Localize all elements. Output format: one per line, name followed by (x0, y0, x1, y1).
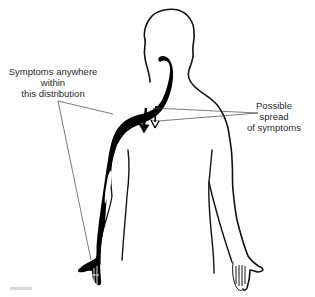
distribution-leader-lines (58, 101, 113, 260)
diagram-canvas: Symptoms anywhere within this distributi… (0, 0, 315, 297)
distribution-label-line-2: within (4, 77, 102, 88)
distribution-label-line-3: this distribution (4, 88, 102, 99)
distribution-label-line-1: Symptoms anywhere (4, 66, 102, 77)
spread-label-line-2: spread (238, 111, 310, 122)
right-torso-side-line (209, 182, 214, 273)
spread-label-line-3: of symptoms (238, 122, 310, 133)
body-outline-head-neck (144, 9, 262, 290)
left-torso-side-line (122, 150, 129, 260)
distribution-label: Symptoms anywhere within this distributi… (4, 66, 102, 99)
right-hand-fingers (233, 262, 245, 290)
faint-figure-mark (10, 287, 32, 290)
spread-label: Possible spread of symptoms (238, 100, 310, 133)
arrow-down-icon (144, 108, 146, 126)
body-figure (0, 0, 315, 297)
spread-label-line-1: Possible (238, 100, 310, 111)
